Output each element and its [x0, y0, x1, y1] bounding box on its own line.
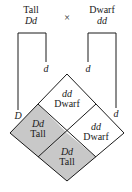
right-parent-genotype: dd — [84, 16, 120, 26]
cell-top-phenotype: Dwarf — [50, 99, 84, 109]
gamete-right-d2: d — [110, 109, 122, 119]
gamete-right-d1: d — [82, 64, 94, 74]
cell-left-phenotype: Tall — [23, 129, 53, 139]
gamete-left-d: d — [40, 64, 52, 74]
cross-symbol: × — [60, 13, 74, 23]
left-parent-phenotype: Tall — [16, 5, 46, 15]
left-parent-genotype: Dd — [16, 16, 46, 26]
cell-right-phenotype: Dwarf — [79, 132, 113, 142]
right-parent-phenotype: Dwarf — [84, 5, 120, 15]
cell-bottom-phenotype: Tall — [52, 157, 82, 167]
